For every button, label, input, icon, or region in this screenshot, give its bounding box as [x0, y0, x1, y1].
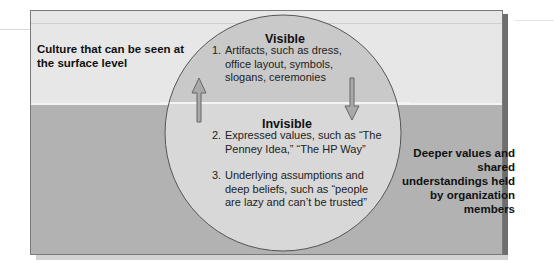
item-number: 3.	[212, 169, 221, 183]
surface-culture-label: Culture that can be seen at the surface …	[37, 42, 187, 70]
item-text: Underlying assumptions and deep beliefs,…	[225, 169, 368, 210]
item-number: 2.	[212, 129, 221, 143]
item-number: 1.	[212, 44, 221, 58]
deep-culture-label: Deeper values and shared understandings …	[398, 146, 515, 216]
item-text: Artifacts, such as dress, office layout,…	[225, 44, 342, 85]
item-text: Expressed values, such as “The Penney Id…	[225, 129, 382, 156]
iceberg-diagram: Culture that can be seen at the surface …	[0, 0, 554, 275]
